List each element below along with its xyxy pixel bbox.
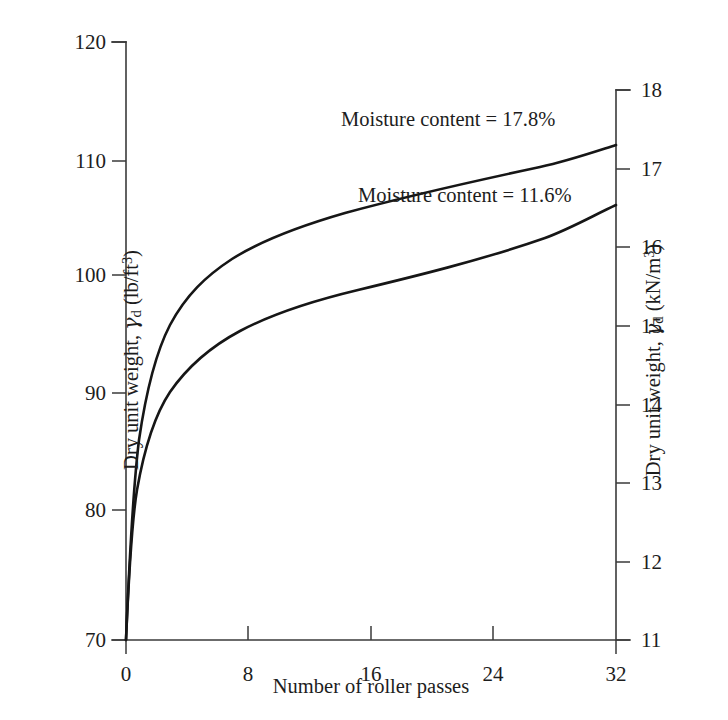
y-axis-left-title: Dry unit weight, γd (lb/ft3) <box>119 250 145 470</box>
x-tick-label-32: 32 <box>606 664 627 685</box>
y-left-unit-exponent: 3 <box>119 257 135 264</box>
left-tick-label-80: 80 <box>44 500 106 521</box>
y-right-unit-open: (kN/m <box>642 258 664 317</box>
gamma-symbol-left: γ <box>119 318 143 330</box>
y-left-unit-open: (lb/ft <box>120 264 142 310</box>
gamma-symbol-right: γ <box>641 324 665 336</box>
left-tick-label-110: 110 <box>44 151 106 172</box>
x-tick-label-24: 24 <box>483 664 504 685</box>
curve-annotation-moisture-11-6: Moisture content = 11.6% <box>358 184 572 207</box>
left-tick-label-100: 100 <box>44 265 106 286</box>
gamma-subscript-left: d <box>128 310 144 317</box>
curve-moisture-11-6 <box>126 205 616 640</box>
right-axis-ticks <box>616 90 630 640</box>
y-right-title-prefix: Dry unit weight, <box>642 336 664 476</box>
y-left-title-prefix: Dry unit weight, <box>120 330 142 470</box>
left-tick-label-120: 120 <box>44 32 106 53</box>
x-tick-label-0: 0 <box>121 664 132 685</box>
right-tick-label-18: 18 <box>641 80 662 101</box>
right-tick-label-17: 17 <box>641 159 662 180</box>
x-axis-title: Number of roller passes <box>273 675 469 698</box>
x-tick-label-8: 8 <box>243 664 254 685</box>
curve-moisture-17-8 <box>126 145 616 640</box>
left-tick-label-90: 90 <box>44 383 106 404</box>
chart-figure: 120 110 100 90 80 70 18 17 16 15 14 13 1… <box>0 0 728 720</box>
y-right-unit-exponent: 3 <box>641 251 657 258</box>
y-left-unit-close: ) <box>120 250 142 257</box>
right-tick-label-11: 11 <box>641 630 661 651</box>
y-right-unit-close: ) <box>642 244 664 251</box>
curve-annotation-moisture-17-8: Moisture content = 17.8% <box>341 108 555 131</box>
y-axis-right-title: Dry unit weight, γd (kN/m3) <box>641 244 667 476</box>
gamma-subscript-right: d <box>650 316 666 323</box>
right-tick-label-12: 12 <box>641 552 662 573</box>
left-tick-label-70: 70 <box>44 630 106 651</box>
